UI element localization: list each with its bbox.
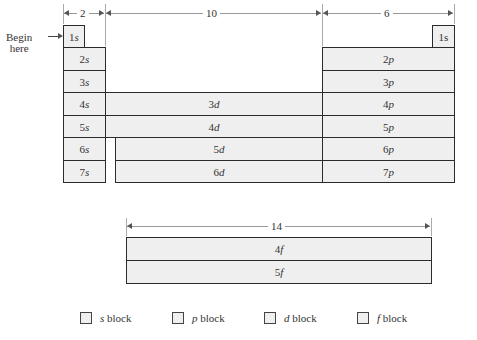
cell-7s: 7s	[63, 160, 106, 183]
cell-5p: 5p	[322, 115, 455, 138]
cell-6s: 6s	[63, 137, 106, 161]
cell-1s-helium: 1s	[432, 25, 455, 48]
dimension-label-f: 14	[268, 220, 285, 232]
cell-4f: 4f	[126, 237, 432, 261]
cell-5f: 5f	[126, 260, 432, 284]
cell-6p: 6p	[322, 137, 455, 161]
cell-3p: 3p	[322, 70, 455, 93]
arrow-left-icon	[323, 10, 328, 16]
cell-2p: 2p	[322, 47, 455, 71]
arrow-right-icon	[448, 10, 453, 16]
legend-item-s: s block	[80, 312, 131, 324]
cell-6d: 6d	[115, 160, 323, 183]
swatch-d	[264, 312, 276, 324]
dim-tick	[431, 218, 432, 236]
arrow-left-icon	[106, 10, 111, 16]
dim-tick	[454, 4, 455, 24]
begin-here-label: Begin here	[6, 32, 32, 54]
dimension-label-p: 6	[381, 7, 393, 19]
swatch-f	[357, 312, 369, 324]
cell-1s: 1s	[63, 25, 85, 48]
legend-item-d: d block	[264, 312, 317, 324]
cell-2s: 2s	[63, 47, 106, 71]
arrow-left-icon	[127, 223, 132, 229]
legend-item-f: f block	[357, 312, 407, 324]
arrow-right-icon	[316, 10, 321, 16]
arrow-left-icon	[64, 10, 69, 16]
cell-4d: 4d	[105, 115, 323, 138]
cell-3s: 3s	[63, 70, 106, 93]
cell-5d: 5d	[115, 137, 323, 161]
cell-3d: 3d	[105, 92, 323, 116]
arrow-right-icon	[99, 10, 104, 16]
cell-5s: 5s	[63, 115, 106, 138]
cell-7p: 7p	[322, 160, 455, 183]
arrow-right-icon	[425, 223, 430, 229]
legend-item-p: p block	[172, 312, 225, 324]
cell-4p: 4p	[322, 92, 455, 116]
dimension-label-s: 2	[77, 7, 89, 19]
swatch-s	[80, 312, 92, 324]
cell-4s: 4s	[63, 92, 106, 116]
dimension-label-d: 10	[203, 7, 220, 19]
swatch-p	[172, 312, 184, 324]
